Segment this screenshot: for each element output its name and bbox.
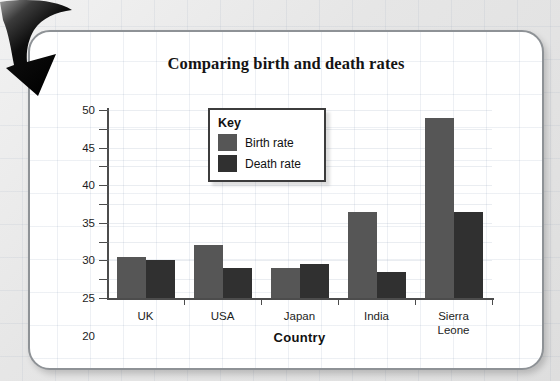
bar-death-rate-japan [300, 264, 329, 298]
y-axis-tick: 40 [99, 148, 107, 149]
bar-death-rate-india [377, 272, 406, 298]
x-axis-tick [184, 298, 185, 305]
y-axis-tick: 5 [99, 279, 107, 280]
y-axis-tick-label: 25 [82, 292, 95, 304]
y-axis-tick: 0 [99, 298, 107, 299]
legend-label-birth-rate: Birth rate [245, 136, 294, 150]
legend-swatch-birth-rate [218, 134, 237, 151]
legend-title: Key [218, 116, 316, 130]
x-axis-tick-label-line: UK [138, 310, 154, 322]
y-axis-tick-label: 20 [82, 330, 95, 342]
x-axis-tick-label-line: India [364, 310, 389, 322]
y-axis-tick-label: 50 [82, 104, 95, 116]
bar-birth-rate-india [348, 212, 377, 298]
bar-birth-rate-sierra-leone [425, 118, 454, 298]
y-axis-tick-label: 15 [82, 367, 95, 370]
bar-birth-rate-usa [194, 245, 223, 298]
y-axis-title: Number of births and deaths (per 1000 pe… [28, 44, 30, 232]
legend-swatch-death-rate [218, 155, 237, 172]
y-axis-tick: 30 [99, 185, 107, 186]
legend-item-birth-rate: Birth rate [218, 134, 316, 151]
legend-label-death-rate: Death rate [245, 157, 301, 171]
x-axis-title: Country [107, 330, 492, 345]
y-axis-tick-label: 35 [82, 217, 95, 229]
x-axis-tick-label-line: Japan [284, 310, 315, 322]
worksheet-panel: Comparing birth and death rates Number o… [28, 30, 544, 370]
bar-birth-rate-japan [271, 268, 300, 298]
y-axis-tick: 20 [99, 223, 107, 224]
chart-title: Comparing birth and death rates [30, 54, 542, 74]
y-axis-tick-label: 40 [82, 179, 95, 191]
x-axis-tick [338, 298, 339, 305]
y-axis-tick: 25 [99, 204, 107, 205]
bar-death-rate-uk [146, 260, 175, 298]
bar-death-rate-usa [223, 268, 252, 298]
y-axis-tick-label: 45 [82, 142, 95, 154]
chart-legend: Key Birth rate Death rate [208, 108, 326, 182]
bar-death-rate-sierra-leone [454, 212, 483, 298]
y-axis-tick: 45 [99, 129, 107, 130]
bar-birth-rate-uk [117, 257, 146, 298]
x-axis-tick [492, 298, 493, 305]
x-axis-tick-label-line: Sierra [438, 310, 469, 322]
x-axis-tick-label-line: USA [211, 310, 235, 322]
y-axis-tick: 35 [99, 166, 107, 167]
x-axis-tick [415, 298, 416, 305]
legend-item-death-rate: Death rate [218, 155, 316, 172]
x-axis-tick [261, 298, 262, 305]
y-axis-tick-label: 30 [82, 254, 95, 266]
y-axis-tick: 15 [99, 242, 107, 243]
y-axis-tick: 10 [99, 260, 107, 261]
x-axis-line [107, 298, 494, 300]
y-axis-tick: 50 [99, 110, 107, 111]
